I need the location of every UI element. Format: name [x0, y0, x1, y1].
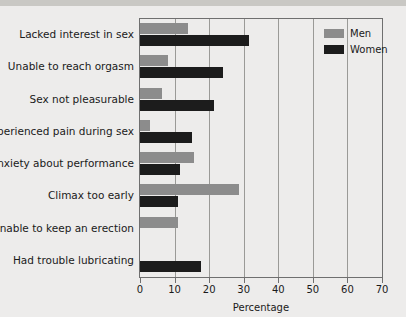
- tick-mark-20: [209, 278, 210, 283]
- bar-row: [140, 148, 382, 180]
- legend-item-women: Women: [324, 43, 388, 56]
- tick-label-30: 30: [237, 284, 250, 295]
- chart-figure: 010203040506070 Percentage Men Women Lac…: [0, 6, 406, 317]
- bar-row: [140, 180, 382, 212]
- tick-label-10: 10: [168, 284, 181, 295]
- bar-men: [140, 23, 188, 34]
- category-label-text: Lacked interest in sex: [19, 28, 134, 40]
- bar-men: [140, 217, 178, 228]
- category-label-text: Had trouble lubricating: [13, 254, 134, 266]
- legend-label-women: Women: [350, 44, 388, 55]
- bar-row: [140, 213, 382, 245]
- category-label-text: Unable to reach orgasm: [8, 60, 134, 72]
- tick-mark-10: [175, 278, 176, 283]
- bar-row: [140, 116, 382, 148]
- tick-mark-0: [140, 278, 141, 283]
- tick-label-0: 0: [137, 284, 143, 295]
- tick-mark-30: [244, 278, 245, 283]
- bar-women: [140, 196, 178, 207]
- bar-women: [140, 132, 192, 143]
- tick-label-50: 50: [306, 284, 319, 295]
- tick-mark-60: [347, 278, 348, 283]
- tick-mark-40: [278, 278, 279, 283]
- category-label: Climax too early: [0, 179, 134, 211]
- bar-women: [140, 164, 180, 175]
- tick-label-40: 40: [272, 284, 285, 295]
- category-label: Unable to reach orgasm: [0, 50, 134, 82]
- category-label-text: Anxiety about performance: [0, 157, 134, 169]
- category-label-text: Sex not pleasurable: [30, 93, 134, 105]
- category-label: Anxiety about performance: [0, 147, 134, 179]
- bar-men: [140, 184, 239, 195]
- legend-swatch-women: [324, 45, 344, 54]
- tick-label-20: 20: [203, 284, 216, 295]
- legend-swatch-men: [324, 29, 344, 38]
- bar-women: [140, 67, 223, 78]
- plot-area: 010203040506070 Percentage Men Women: [139, 18, 383, 278]
- bar-men: [140, 120, 150, 131]
- category-label-text: Climax too early: [48, 189, 134, 201]
- category-label-text: Unable to keep an erection: [0, 222, 134, 234]
- category-label: Unable to keep an erection: [0, 212, 134, 244]
- legend: Men Women: [324, 27, 388, 59]
- category-label-text: Experienced pain during sex: [0, 125, 134, 137]
- bar-women: [140, 100, 214, 111]
- tick-mark-70: [382, 278, 383, 283]
- category-label: Had trouble lubricating: [0, 244, 134, 276]
- bar-men: [140, 88, 162, 99]
- x-axis-title: Percentage: [140, 302, 382, 313]
- tick-mark-50: [313, 278, 314, 283]
- bar-women: [140, 261, 201, 272]
- bar-women: [140, 35, 249, 46]
- tick-label-70: 70: [376, 284, 389, 295]
- category-label: Experienced pain during sex: [0, 115, 134, 147]
- legend-label-men: Men: [350, 28, 371, 39]
- tick-label-60: 60: [341, 284, 354, 295]
- category-label: Lacked interest in sex: [0, 18, 134, 50]
- legend-item-men: Men: [324, 27, 388, 40]
- category-label: Sex not pleasurable: [0, 83, 134, 115]
- bar-row: [140, 245, 382, 277]
- bar-row: [140, 84, 382, 116]
- bar-men: [140, 55, 168, 66]
- bar-men: [140, 152, 194, 163]
